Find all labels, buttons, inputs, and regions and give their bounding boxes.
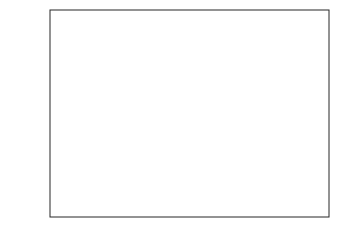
box-plot-chart bbox=[0, 0, 347, 229]
plot-area bbox=[50, 10, 329, 217]
